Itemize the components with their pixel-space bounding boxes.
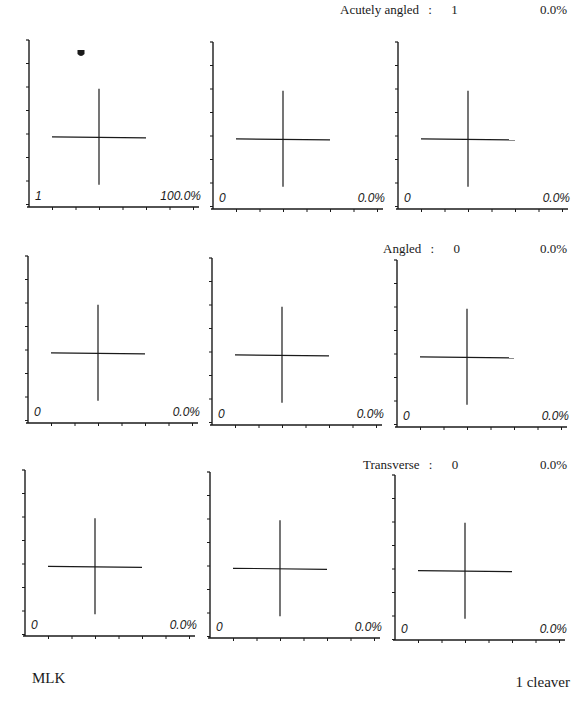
scatter-plot (25, 470, 197, 642)
row-label-text: Acutely angled (340, 2, 419, 17)
row-percent-acutely-angled: 0.0% (540, 2, 567, 18)
panel-r1-c2: 00.0% (213, 42, 385, 209)
row-label-angled: Angled : 0 (383, 241, 460, 257)
panel-count: 0 (404, 191, 411, 205)
panel-r1-c3: 00.0% (398, 42, 570, 209)
panel-percent: 100.0% (160, 189, 201, 203)
row-label-text: Transverse (363, 457, 420, 472)
scatter-plot (210, 472, 382, 644)
row-label-text: Angled (383, 241, 421, 256)
panel-r2-c1: 00.0% (28, 256, 200, 423)
panel-r3-c3: 00.0% (395, 475, 567, 640)
panel-percent: 0.0% (170, 618, 197, 632)
row-label-sep: : (431, 241, 435, 256)
panel-percent: 0.0% (358, 191, 385, 205)
panel-r3-c1: 00.0% (25, 470, 197, 636)
panel-percent: 0.0% (540, 622, 567, 636)
panel-percent: 0.0% (173, 405, 200, 419)
scatter-plot (398, 42, 570, 215)
panel-percent: 0.0% (355, 620, 382, 634)
row-count: 0 (453, 241, 460, 256)
data-point-marker (78, 50, 85, 56)
panel-percent: 0.0% (542, 409, 569, 423)
row-label-acutely-angled: Acutely angled : 1 (340, 2, 458, 18)
scatter-plot (29, 40, 201, 213)
row-count: 0 (452, 457, 459, 472)
panel-count: 0 (218, 407, 225, 421)
panel-r3-c2: 00.0% (210, 472, 382, 638)
panel-r2-c3: 00.0% (397, 260, 569, 427)
row-percent-transverse: 0.0% (540, 457, 567, 473)
row-label-sep: : (428, 2, 432, 17)
row-percent-angled: 0.0% (540, 241, 567, 257)
panel-count: 1 (35, 189, 42, 203)
scatter-plot (395, 475, 567, 646)
panel-r1-c1: 1100.0% (29, 40, 201, 207)
scatter-plot (212, 258, 384, 431)
panel-count: 0 (219, 191, 226, 205)
footer-count-label: 1 cleaver (515, 674, 570, 691)
panel-count: 0 (216, 620, 223, 634)
panel-count: 0 (401, 622, 408, 636)
panel-percent: 0.0% (357, 407, 384, 421)
row-label-sep: : (429, 457, 433, 472)
scatter-plot (397, 260, 569, 433)
panel-count: 0 (31, 618, 38, 632)
scatter-plot (213, 42, 385, 215)
scatter-plot (28, 256, 200, 429)
row-label-transverse: Transverse : 0 (363, 457, 458, 473)
panel-r2-c2: 00.0% (212, 258, 384, 425)
footer-site-label: MLK (32, 670, 65, 687)
panel-count: 0 (34, 405, 41, 419)
panel-percent: 0.0% (543, 191, 570, 205)
row-count: 1 (451, 2, 458, 17)
panel-count: 0 (403, 409, 410, 423)
